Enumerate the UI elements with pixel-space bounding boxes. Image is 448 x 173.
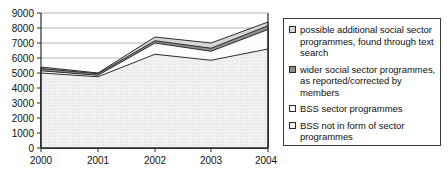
legend-item-label: possible additional social sector progra… bbox=[300, 24, 436, 59]
legend-item[interactable]: BSS not in form of sector programmes bbox=[289, 120, 436, 143]
x-tick-label: 2003 bbox=[200, 155, 223, 166]
y-tick-label: 9000 bbox=[12, 8, 35, 19]
legend-swatch-icon bbox=[289, 66, 296, 73]
legend-swatch-icon bbox=[289, 122, 296, 129]
y-tick-label: 7000 bbox=[12, 38, 35, 49]
y-tick-label: 6000 bbox=[12, 53, 35, 64]
x-tick-label: 2002 bbox=[144, 155, 167, 166]
legend-swatch-icon bbox=[289, 105, 296, 112]
x-tick-label: 2000 bbox=[30, 155, 53, 166]
x-tick-label: 2001 bbox=[87, 155, 110, 166]
legend-item-label: BSS sector programmes bbox=[300, 103, 402, 115]
y-tick-label: 8000 bbox=[12, 23, 35, 34]
x-tick-marks bbox=[41, 148, 268, 152]
x-tick-label: 2004 bbox=[255, 155, 278, 166]
plot-area: 9000 8000 7000 6000 5000 4000 3000 2000 … bbox=[0, 0, 284, 173]
chart-svg: 9000 8000 7000 6000 5000 4000 3000 2000 … bbox=[0, 0, 284, 173]
x-axis-labels: 2000 2001 2002 2003 2004 bbox=[30, 155, 278, 166]
y-tick-label: 3000 bbox=[12, 98, 35, 109]
legend-item-label: BSS not in form of sector programmes bbox=[300, 120, 436, 143]
y-tick-label: 4000 bbox=[12, 83, 35, 94]
y-tick-label: 2000 bbox=[12, 113, 35, 124]
legend-item[interactable]: possible additional social sector progra… bbox=[289, 24, 436, 59]
y-tick-label: 0 bbox=[28, 143, 34, 154]
legend-item-label: wider social sector programmes, as repor… bbox=[300, 64, 436, 99]
legend-swatch-icon bbox=[289, 26, 296, 33]
legend-item[interactable]: wider social sector programmes, as repor… bbox=[289, 64, 436, 99]
legend-item[interactable]: BSS sector programmes bbox=[289, 103, 436, 115]
y-axis-labels: 9000 8000 7000 6000 5000 4000 3000 2000 … bbox=[12, 8, 35, 154]
chart-legend: possible additional social sector progra… bbox=[283, 18, 441, 146]
stacked-area-chart-figure: 9000 8000 7000 6000 5000 4000 3000 2000 … bbox=[0, 0, 448, 173]
y-tick-label: 5000 bbox=[12, 68, 35, 79]
y-tick-label: 1000 bbox=[12, 128, 35, 139]
